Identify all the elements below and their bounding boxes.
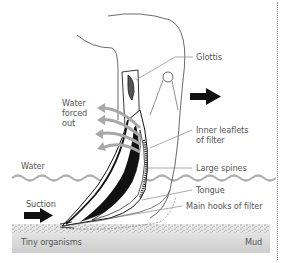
label-water-forced-out-line2: forced xyxy=(62,108,87,118)
label-inner-leaflets-line1: Inner leaflets xyxy=(196,125,248,135)
glottis-opening xyxy=(163,72,173,82)
label-glottis: Glottis xyxy=(196,52,222,62)
label-tongue: Tongue xyxy=(196,185,225,195)
label-water-forced-out-line3: out xyxy=(62,118,75,128)
label-water: Water xyxy=(21,161,45,171)
label-water-forced-out-line1: Water xyxy=(62,98,86,108)
label-inner-leaflets-line2: of filter xyxy=(196,135,225,145)
label-suction: Suction xyxy=(26,199,56,209)
suction-arrow xyxy=(24,208,53,223)
label-large-spines: Large spines xyxy=(196,163,247,173)
right-edge-dotted-border xyxy=(277,2,278,260)
label-tiny-organisms: Tiny organisms xyxy=(21,237,82,247)
flamingo-filter-diagram: Glottis Water forced out Inner leaflets … xyxy=(0,0,284,263)
label-main-hooks: Main hooks of filter xyxy=(186,201,263,211)
label-mud: Mud xyxy=(245,237,262,247)
water-arrowheads xyxy=(95,103,106,151)
movement-direction-arrow xyxy=(190,88,221,105)
